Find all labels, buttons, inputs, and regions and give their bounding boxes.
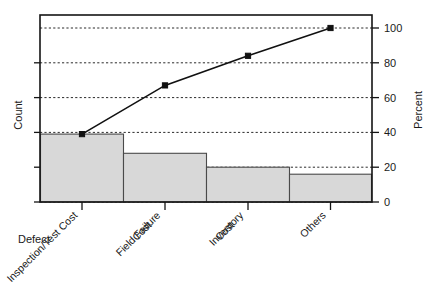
right-tick-label-0: 0 (384, 196, 390, 208)
right-tick-label-100: 100 (384, 22, 402, 34)
cumulative-point-4 (328, 25, 333, 30)
cumulative-point-3 (245, 53, 250, 58)
bar-field-failure-cost (124, 153, 207, 202)
cumulative-point-1 (79, 132, 84, 137)
right-tick-label-20: 20 (384, 161, 396, 173)
chart-canvas: 0 20 40 60 80 100 Inspection/Test Cost F… (0, 0, 442, 305)
pareto-chart: 0 20 40 60 80 100 Inspection/Test Cost F… (0, 0, 442, 305)
x-axis-title: Defect (18, 233, 50, 245)
right-tick-label-40: 40 (384, 126, 396, 138)
right-tick-label-80: 80 (384, 57, 396, 69)
left-axis-title: Count (12, 100, 24, 129)
cumulative-point-2 (162, 83, 167, 88)
bar-inventory-cost (207, 167, 290, 202)
bar-inspection-test-cost (41, 134, 124, 202)
bar-others (290, 174, 372, 202)
right-tick-label-60: 60 (384, 92, 396, 104)
right-axis-title: Percent (412, 91, 424, 129)
